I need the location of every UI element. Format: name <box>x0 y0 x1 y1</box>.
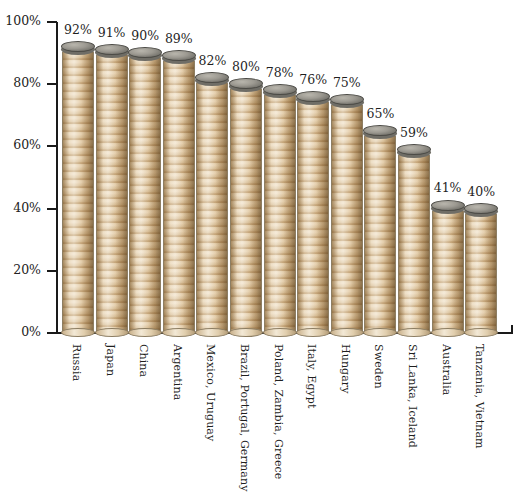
coin-stack-base <box>397 328 431 337</box>
y-axis-tick-label: 60% <box>0 137 41 152</box>
y-axis-tick-label: 40% <box>0 200 41 215</box>
bar-coin-stack[interactable] <box>163 56 195 333</box>
coin-stack-body <box>230 89 262 333</box>
x-axis-category-label: China <box>137 344 150 377</box>
coin-stack-body <box>331 105 363 333</box>
x-axis-category-label: Sweden <box>372 344 385 389</box>
y-axis-tick <box>47 145 57 147</box>
coin-stack-base <box>330 328 364 337</box>
y-axis-tick <box>47 83 57 85</box>
coin-stack-base <box>363 328 397 337</box>
y-axis-tick <box>47 270 57 272</box>
bar-coin-stack[interactable] <box>432 206 464 334</box>
bar-coin-stack[interactable] <box>129 53 161 333</box>
coin-top-face <box>464 203 498 214</box>
x-axis-category-label: Tanzania, Vietnam <box>473 344 486 449</box>
x-axis-category-label: Russia <box>70 344 83 381</box>
x-axis-category-label: Mexico, Uruguay <box>204 344 217 441</box>
bar-coin-stack[interactable] <box>364 131 396 333</box>
coin-stack-body <box>96 55 128 333</box>
coin-stack-base <box>431 328 465 337</box>
coin-stack-body <box>297 102 329 333</box>
coin-stack-body <box>364 136 396 333</box>
bar-coin-stack[interactable] <box>96 50 128 333</box>
coin-stack-body <box>264 95 296 333</box>
x-axis-category-label: Japan <box>104 344 117 376</box>
coin-stack-base <box>128 328 162 337</box>
bar-coin-stack[interactable] <box>62 47 94 333</box>
coin-stack-body <box>62 52 94 333</box>
coin-stack-base <box>229 328 263 337</box>
bar-value-label: 65% <box>354 106 406 121</box>
y-axis-tick-label: 0% <box>0 324 41 339</box>
coin-stack-base <box>195 328 229 337</box>
bar-value-label: 89% <box>153 31 205 46</box>
x-axis-category-label: Brazil, Portugal, Germany <box>238 344 251 492</box>
x-axis-category-label: Sri Lanka, Iceland <box>406 344 419 448</box>
bar-coin-stack[interactable] <box>331 100 363 333</box>
bar-coin-stack[interactable] <box>196 78 228 333</box>
coin-top-face <box>363 125 397 136</box>
x-axis-category-label: Hungary <box>339 344 352 394</box>
coin-top-face <box>431 200 465 211</box>
coin-top-face <box>296 91 330 102</box>
coin-top-face <box>330 94 364 105</box>
bar-coin-stack[interactable] <box>264 90 296 333</box>
coin-top-face <box>95 44 129 55</box>
x-axis-category-label: Italy, Egypt <box>305 344 318 409</box>
bar-coin-stack[interactable] <box>230 84 262 333</box>
bar-coin-stack[interactable] <box>297 97 329 333</box>
coin-stack-body <box>163 61 195 333</box>
y-axis-tick-label: 100% <box>0 13 41 28</box>
x-axis-category-label: Australia <box>440 344 453 395</box>
coin-stack-body <box>465 214 497 333</box>
coin-stack-base <box>61 328 95 337</box>
coin-stack-body <box>129 58 161 333</box>
y-axis-tick-label: 20% <box>0 262 41 277</box>
coin-stack-body <box>196 83 228 333</box>
coin-stack-base <box>162 328 196 337</box>
y-axis-tick-label: 80% <box>0 75 41 90</box>
coin-top-face <box>61 41 95 52</box>
plot-area: 92%91%90%89%82%80%78%76%75%65%59%41%40% <box>58 22 513 333</box>
coin-stack-base <box>464 328 498 337</box>
bar-value-label: 75% <box>321 75 373 90</box>
bar-value-label: 40% <box>455 184 507 199</box>
x-axis-category-label: Argentina <box>171 344 184 400</box>
y-axis-tick <box>47 332 57 334</box>
coin-stack-base <box>263 328 297 337</box>
bar-coin-stack[interactable] <box>465 209 497 333</box>
x-axis-category-label: Poland, Zambia, Greece <box>272 344 285 479</box>
bar-coin-stack[interactable] <box>398 150 430 333</box>
y-axis-tick <box>47 208 57 210</box>
coin-top-face <box>397 144 431 155</box>
coin-stack-base <box>296 328 330 337</box>
coin-stack-base <box>95 328 129 337</box>
coin-stack-body <box>432 211 464 334</box>
